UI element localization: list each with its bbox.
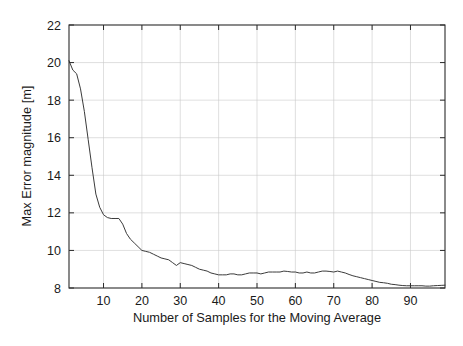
y-tick-label: 16 [47,131,61,145]
y-tick-label: 12 [47,206,61,220]
x-tick-label: 40 [212,294,226,308]
x-tick-label: 10 [97,294,111,308]
line-chart: 102030405060708090810121416182022 Max Er… [0,0,463,346]
x-tick-label: 20 [135,294,149,308]
gridlines [69,25,445,288]
y-tick-label: 18 [47,94,61,108]
y-tick-label: 8 [54,282,61,296]
x-axis-title: Number of Samples for the Moving Average [133,310,381,325]
x-tick-label: 70 [327,294,341,308]
y-tick-label: 14 [47,169,61,183]
tick-labels: 102030405060708090810121416182022 [47,19,417,309]
y-tick-label: 10 [47,244,61,258]
x-tick-label: 90 [404,294,418,308]
x-tick-label: 60 [288,294,302,308]
x-tick-label: 30 [173,294,187,308]
y-axis-title: Max Error magnitude [m] [19,86,34,227]
chart-figure: 102030405060708090810121416182022 Max Er… [0,0,463,346]
y-tick-label: 20 [47,56,61,70]
x-tick-label: 80 [365,294,379,308]
x-tick-label: 50 [250,294,264,308]
y-tick-label: 22 [47,19,61,33]
